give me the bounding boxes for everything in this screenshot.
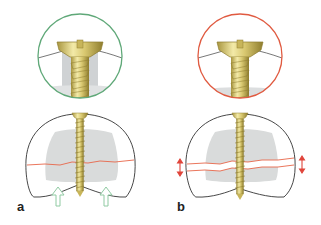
bone-section-a — [26, 113, 135, 206]
panel-label-b: b — [177, 199, 185, 214]
inset-magnifier-b — [198, 14, 282, 102]
fixation-diagram — [0, 0, 321, 225]
panel-a — [26, 14, 135, 206]
panel-b — [178, 14, 305, 200]
panel-label-a: a — [17, 199, 24, 214]
bone-section-b — [178, 113, 305, 200]
inset-magnifier-a — [38, 14, 122, 102]
